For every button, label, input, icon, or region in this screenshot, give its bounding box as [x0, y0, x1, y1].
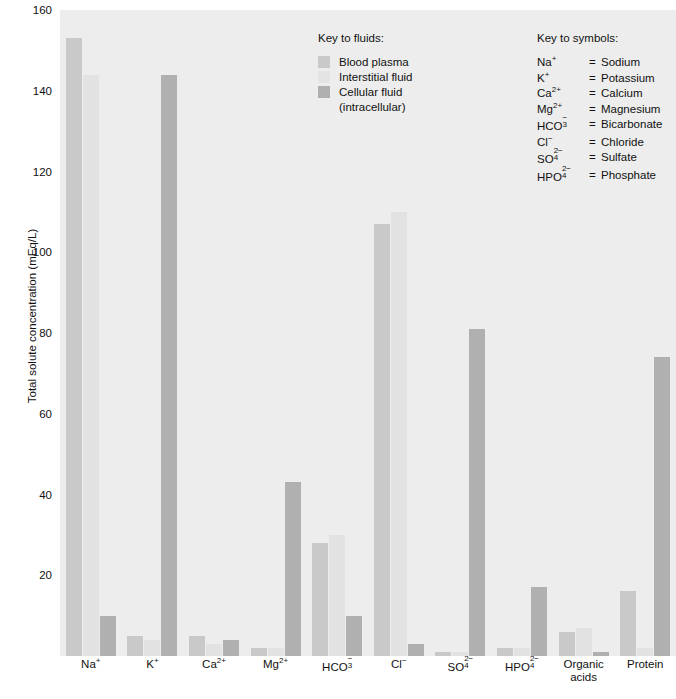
- bar-interstitial-8: [576, 628, 592, 656]
- bar-cellular-4: [346, 616, 362, 656]
- bar-plasma-4: [312, 543, 328, 656]
- y-tick-100: 100: [33, 246, 52, 258]
- legend-symbol-row-3: Mg2+=Magnesium: [537, 102, 662, 116]
- bar-plasma-8: [559, 632, 575, 656]
- legend-fluid-item-1: Interstitial fluid: [318, 70, 413, 84]
- chart-root: Total solute concentration (mEq/L) 16014…: [0, 0, 676, 699]
- bar-cellular-9: [654, 357, 670, 656]
- legend-symbol-name-1: Potassium: [601, 71, 655, 85]
- y-axis-title: Total solute concentration (mEq/L): [26, 196, 38, 436]
- legend-symbol-formula-7: HPO2−4: [537, 168, 589, 184]
- x-label-2: Ca2+: [202, 658, 226, 671]
- legend-symbol-formula-4: HCO−3: [537, 117, 589, 133]
- legend-symbols-title: Key to symbols:: [537, 32, 662, 44]
- legend-symbol-row-1: K+=Potassium: [537, 71, 662, 85]
- legend-symbol-name-6: Sulfate: [601, 150, 637, 166]
- bar-plasma-6: [435, 652, 451, 656]
- legend-symbols-items: Na+=SodiumK+=PotassiumCa2+=CalciumMg2+=M…: [537, 55, 662, 184]
- bar-cellular-6: [469, 329, 485, 656]
- y-tick-40: 40: [39, 489, 52, 501]
- x-label-9: Protein: [627, 658, 663, 671]
- legend-symbol-row-7: HPO2−4=Phosphate: [537, 168, 662, 184]
- legend-symbol-formula-0: Na+: [537, 55, 589, 69]
- x-label-5: Cl−: [391, 658, 407, 671]
- y-tick-120: 120: [33, 166, 52, 178]
- y-tick-20: 20: [39, 569, 52, 581]
- bar-cellular-7: [531, 587, 547, 656]
- x-label-7: HPO2−4: [505, 658, 539, 674]
- bar-cellular-5: [408, 644, 424, 656]
- legend-fluids-title: Key to fluids:: [318, 32, 413, 44]
- legend-symbol-name-3: Magnesium: [601, 102, 660, 116]
- bar-interstitial-0: [83, 75, 99, 656]
- bar-cellular-2: [223, 640, 239, 656]
- bar-cellular-8: [593, 652, 609, 656]
- legend-fluid-item-2: Cellular fluid(intracellular): [318, 85, 413, 114]
- bar-interstitial-5: [391, 212, 407, 656]
- plot-area: Key to fluids: Blood plasmaInterstitial …: [60, 10, 676, 656]
- legend-fluid-label-0: Blood plasma: [339, 55, 409, 69]
- x-label-4: HCO−3: [322, 658, 352, 674]
- bar-interstitial-3: [268, 648, 284, 656]
- bar-plasma-0: [66, 38, 82, 656]
- legend-symbol-equals-5: =: [589, 135, 601, 149]
- bar-cellular-0: [100, 616, 116, 656]
- legend-symbol-name-4: Bicarbonate: [601, 117, 662, 133]
- legend-fluid-label-1: Interstitial fluid: [339, 70, 413, 84]
- x-label-8: Organicacids: [563, 658, 603, 684]
- legend-symbol-equals-1: =: [589, 71, 601, 85]
- legend-symbols: Key to symbols: Na+=SodiumK+=PotassiumCa…: [537, 32, 662, 185]
- bar-interstitial-9: [637, 648, 653, 656]
- legend-fluids: Key to fluids: Blood plasmaInterstitial …: [318, 32, 413, 114]
- legend-symbol-equals-0: =: [589, 55, 601, 69]
- legend-symbol-formula-5: Cl−: [537, 135, 589, 149]
- legend-symbol-name-2: Calcium: [601, 86, 643, 100]
- legend-symbol-equals-7: =: [589, 168, 601, 184]
- bar-plasma-5: [374, 224, 390, 656]
- legend-fluid-item-0: Blood plasma: [318, 55, 413, 69]
- x-label-1: K+: [146, 658, 158, 671]
- legend-fluid-sublabel-2: (intracellular): [339, 100, 413, 114]
- y-tick-80: 80: [39, 327, 52, 339]
- legend-symbol-name-5: Chloride: [601, 135, 644, 149]
- legend-fluid-label-2: Cellular fluid: [339, 85, 402, 99]
- bar-interstitial-7: [514, 648, 530, 656]
- bar-plasma-1: [127, 636, 143, 656]
- x-label-0: Na+: [81, 658, 100, 671]
- legend-symbol-equals-3: =: [589, 102, 601, 116]
- bar-interstitial-4: [329, 535, 345, 656]
- legend-swatch-icon-0: [318, 56, 330, 68]
- bar-interstitial-1: [144, 640, 160, 656]
- legend-symbol-equals-6: =: [589, 150, 601, 166]
- y-axis: Total solute concentration (mEq/L) 16014…: [0, 0, 60, 699]
- legend-swatch-icon-2: [318, 86, 330, 98]
- x-label-3: Mg2+: [263, 658, 288, 671]
- legend-symbol-equals-4: =: [589, 117, 601, 133]
- legend-symbol-equals-2: =: [589, 86, 601, 100]
- legend-symbol-row-2: Ca2+=Calcium: [537, 86, 662, 100]
- y-tick-160: 160: [33, 4, 52, 16]
- bar-cellular-1: [161, 75, 177, 656]
- bar-plasma-2: [189, 636, 205, 656]
- legend-symbol-name-0: Sodium: [601, 55, 640, 69]
- legend-fluids-items: Blood plasmaInterstitial fluidCellular f…: [318, 55, 413, 114]
- legend-symbol-row-4: HCO−3=Bicarbonate: [537, 117, 662, 133]
- legend-symbol-name-7: Phosphate: [601, 168, 656, 184]
- legend-symbol-formula-2: Ca2+: [537, 86, 589, 100]
- x-label-6: SO2−4: [448, 658, 474, 674]
- legend-symbol-row-6: SO2−4=Sulfate: [537, 150, 662, 166]
- bar-plasma-7: [497, 648, 513, 656]
- bar-cellular-3: [285, 482, 301, 656]
- legend-symbol-row-0: Na+=Sodium: [537, 55, 662, 69]
- x-axis-labels: Na+K+Ca2+Mg2+HCO−3Cl−SO2−4HPO2−4Organica…: [60, 658, 676, 699]
- legend-swatch-icon-1: [318, 71, 330, 83]
- bar-interstitial-2: [206, 644, 222, 656]
- bar-plasma-9: [620, 591, 636, 656]
- bar-plasma-3: [251, 648, 267, 656]
- y-tick-60: 60: [39, 408, 52, 420]
- y-tick-140: 140: [33, 85, 52, 97]
- legend-symbol-formula-1: K+: [537, 71, 589, 85]
